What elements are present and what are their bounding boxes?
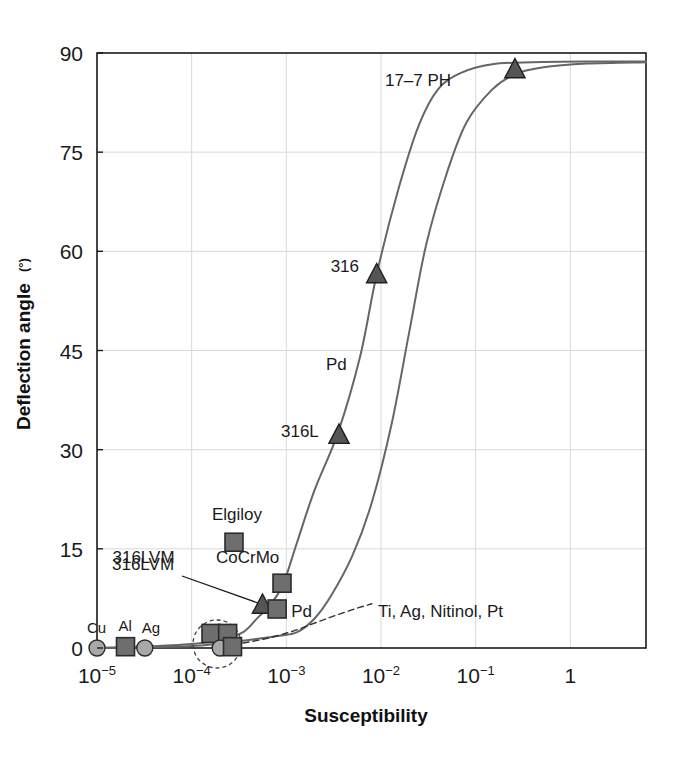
- marker-label-17-7-ph: 17–7 PH: [385, 71, 451, 90]
- y-axis-title-text: Deflection angle: [13, 283, 34, 430]
- y-axis-title: Deflection angle (°): [13, 258, 34, 430]
- y-tick-45: 45: [60, 340, 83, 363]
- x-tick-group: 1: [564, 664, 576, 687]
- y-tick-30: 30: [60, 439, 83, 462]
- marker-label-316l: 316L: [281, 422, 319, 441]
- marker-label-ag: Ag: [142, 619, 160, 636]
- y-tick-90: 90: [60, 42, 83, 65]
- annotation-ti-ag-nitinol-pt: Ti, Ag, Nitinol, Pt: [378, 602, 503, 621]
- x-tick-5: 1: [564, 664, 576, 687]
- marker-point-3: [202, 624, 220, 642]
- marker-cocrmo: [273, 574, 291, 592]
- marker-label-cu: Cu: [87, 619, 106, 636]
- marker-label-pd: Pd: [291, 602, 312, 621]
- annotation-pd: Pd: [326, 355, 347, 374]
- y-tick-60: 60: [60, 240, 83, 263]
- marker-pd: [268, 600, 286, 618]
- y-axis-title-unit: (°): [16, 258, 31, 272]
- marker-label-cocrmo: CoCrMo: [216, 548, 279, 567]
- annotation-316lvm: 316LVM: [112, 555, 174, 574]
- deflection-angle-vs-susceptibility-chart: CuAlAgElgiloyCoCrMo316LVMPd316L31617–7 P…: [0, 0, 678, 758]
- marker-label-elgiloy: Elgiloy: [212, 505, 263, 524]
- marker-al: [116, 638, 134, 656]
- y-tick-75: 75: [60, 141, 83, 164]
- y-tick-15: 15: [60, 538, 83, 561]
- marker-ag: [137, 640, 153, 656]
- chart-figure: CuAlAgElgiloyCoCrMo316LVMPd316L31617–7 P…: [0, 0, 678, 758]
- marker-point-6: [224, 638, 242, 656]
- marker-label-316: 316: [331, 257, 359, 276]
- marker-label-al: Al: [118, 617, 131, 634]
- x-axis-title: Susceptibility: [304, 705, 428, 726]
- y-tick-0: 0: [71, 637, 83, 660]
- svg-text:Deflection angle (°): Deflection angle (°): [13, 258, 34, 430]
